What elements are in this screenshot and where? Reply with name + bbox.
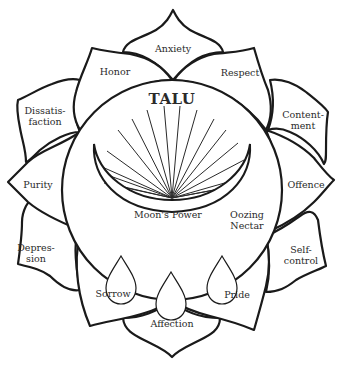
petal-label-self-control: Self- control xyxy=(284,244,318,266)
petal-label-dissatisfaction: Dissatis- faction xyxy=(24,105,65,127)
petal-label-sorrow: Sorrow xyxy=(95,288,130,299)
petal-label-contentment: Content- ment xyxy=(282,109,324,131)
petal-label-pride: Pride xyxy=(224,289,250,300)
talu-circle xyxy=(62,80,282,300)
petal-label-offence: Offence xyxy=(287,179,324,190)
moons-power-label: Moon's Power xyxy=(134,209,202,220)
petal-label-affection: Affection xyxy=(150,318,193,329)
talu-lotus-diagram: TALU Moon's Power Oozing Nectar Anxiety … xyxy=(0,0,345,365)
petal-label-depression: Depres- sion xyxy=(17,242,55,264)
oozing-nectar-label: Oozing Nectar xyxy=(230,209,264,231)
petal-label-honor: Honor xyxy=(100,66,130,77)
petal-label-respect: Respect xyxy=(221,67,260,78)
petal-label-anxiety: Anxiety xyxy=(155,43,191,54)
petal-label-purity: Purity xyxy=(23,179,52,190)
diagram-title: TALU xyxy=(149,90,196,108)
